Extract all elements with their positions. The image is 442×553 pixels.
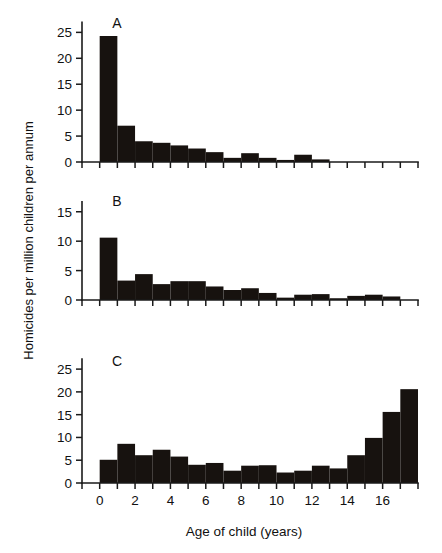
x-axis-label: Age of child (years) xyxy=(0,524,442,539)
y-tick-label: 15 xyxy=(57,408,72,423)
x-tick-label: 6 xyxy=(202,493,210,508)
y-tick-label: 25 xyxy=(57,25,72,40)
bar xyxy=(100,36,118,162)
bar xyxy=(153,450,171,483)
bar xyxy=(117,281,135,300)
y-tick-label: 5 xyxy=(64,129,72,144)
x-tick-label: 8 xyxy=(237,493,245,508)
bar xyxy=(223,471,241,483)
y-tick-label: 0 xyxy=(64,155,72,170)
x-tick-label: 16 xyxy=(375,493,390,508)
figure-root: Homicides per million children per annum… xyxy=(0,0,442,553)
panel-c: 05101520250246810121416C xyxy=(57,353,418,508)
bar xyxy=(277,473,295,483)
panel-letter-a: A xyxy=(112,15,122,31)
y-tick-label: 10 xyxy=(57,430,72,445)
bar xyxy=(188,465,206,483)
bar xyxy=(153,284,171,300)
x-tick-label: 12 xyxy=(304,493,319,508)
bar xyxy=(170,457,188,483)
histogram-panels: 0510152025A051015B0510152025024681012141… xyxy=(0,0,442,553)
bar xyxy=(100,238,118,300)
bar xyxy=(259,465,277,483)
bar xyxy=(330,468,348,483)
panel-letter-b: B xyxy=(112,193,121,209)
bar xyxy=(135,141,153,162)
bar xyxy=(135,455,153,483)
bar xyxy=(312,294,330,300)
x-tick-label: 14 xyxy=(340,493,356,508)
y-tick-label: 15 xyxy=(57,205,72,220)
bar xyxy=(170,281,188,300)
bar xyxy=(259,293,277,300)
bar xyxy=(188,149,206,162)
bar xyxy=(400,389,418,483)
x-tick-label: 2 xyxy=(131,493,139,508)
y-tick-label: 20 xyxy=(57,51,72,66)
bar xyxy=(170,145,188,162)
y-tick-label: 5 xyxy=(64,264,72,279)
y-tick-label: 0 xyxy=(64,476,72,491)
bar xyxy=(117,444,135,483)
bar xyxy=(117,126,135,162)
bar xyxy=(241,288,259,300)
panel-a: 0510152025A xyxy=(57,15,418,170)
bar xyxy=(383,412,401,483)
bar xyxy=(188,281,206,300)
bar xyxy=(241,153,259,162)
bar xyxy=(153,143,171,162)
bar xyxy=(135,274,153,300)
bar xyxy=(294,155,312,162)
bar xyxy=(312,466,330,483)
y-tick-label: 25 xyxy=(57,362,72,377)
panel-letter-c: C xyxy=(112,353,122,369)
bar xyxy=(365,438,383,483)
x-tick-label: 10 xyxy=(269,493,284,508)
bar xyxy=(100,460,118,483)
y-tick-label: 10 xyxy=(57,103,72,118)
x-axis-label-text: Age of child (years) xyxy=(186,524,302,539)
panel-b: 051015B xyxy=(57,193,418,308)
bar xyxy=(206,152,224,162)
y-tick-label: 20 xyxy=(57,385,72,400)
bar xyxy=(206,286,224,300)
y-tick-label: 15 xyxy=(57,77,72,92)
x-tick-label: 4 xyxy=(167,493,175,508)
bar xyxy=(294,471,312,483)
bar xyxy=(347,455,365,483)
bar xyxy=(241,466,259,483)
y-tick-label: 5 xyxy=(64,453,72,468)
y-tick-label: 10 xyxy=(57,234,72,249)
x-tick-label: 0 xyxy=(96,493,104,508)
bar xyxy=(223,290,241,300)
y-tick-label: 0 xyxy=(64,293,72,308)
bar xyxy=(206,463,224,483)
